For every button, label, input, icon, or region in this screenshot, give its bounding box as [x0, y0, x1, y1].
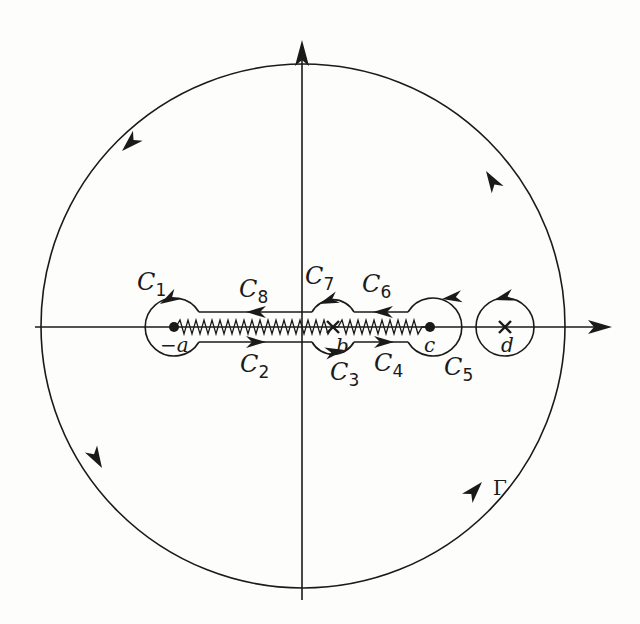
label-C5: C5	[444, 353, 473, 385]
label-c: c	[424, 333, 435, 357]
label-b: b	[336, 334, 349, 358]
contour-diagram: −a b c d C1 C8 C7 C6 C2 C3 C4 C5 Γ	[0, 0, 640, 624]
label-C3: C3	[330, 358, 359, 390]
gamma-arrow-lower-right-icon	[462, 477, 487, 503]
gamma-arrow-upper-left-icon	[117, 131, 143, 156]
label-d: d	[501, 333, 514, 357]
d-circle-arrow-icon	[492, 289, 514, 306]
label-neg-a: −a	[160, 333, 189, 357]
gamma-arrow-upper-right-icon	[480, 167, 504, 193]
label-C8: C8	[239, 275, 268, 307]
label-C6: C6	[362, 270, 391, 302]
branch-point-c-icon	[425, 322, 435, 332]
label-C1: C1	[137, 268, 166, 300]
label-C7: C7	[305, 262, 334, 294]
label-C4: C4	[374, 349, 403, 381]
c5-arrow-icon	[441, 290, 462, 305]
gamma-arrow-lower-left-icon	[85, 445, 108, 471]
branch-point-neg-a-icon	[169, 322, 179, 332]
label-gamma: Γ	[493, 476, 507, 500]
gamma-arrows	[85, 131, 504, 503]
gamma-contour	[41, 64, 565, 588]
label-C2: C2	[240, 350, 269, 382]
